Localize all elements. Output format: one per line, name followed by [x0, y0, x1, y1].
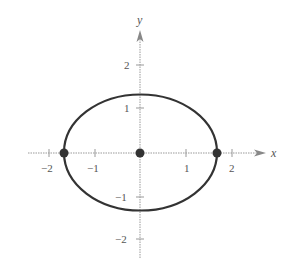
- diagram-svg: x y −2 −1 1 2 2 1 −1 −2: [0, 0, 282, 268]
- left-vertex-point: [60, 149, 69, 158]
- y-tick-label: 1: [124, 102, 130, 114]
- x-tick-label: −2: [41, 162, 53, 174]
- y-axis-label: y: [136, 13, 143, 27]
- ellipse-diagram: x y −2 −1 1 2 2 1 −1 −2: [0, 0, 282, 268]
- x-tick-label: −1: [87, 162, 99, 174]
- y-tick-label: −2: [115, 233, 127, 245]
- x-tick-label: 1: [184, 162, 190, 174]
- y-tick-label: −1: [115, 191, 127, 203]
- right-vertex-point: [213, 149, 222, 158]
- x-tick-label: 2: [229, 162, 235, 174]
- y-tick-label: 2: [124, 59, 130, 71]
- x-axis-label: x: [270, 146, 277, 160]
- center-point: [136, 149, 145, 158]
